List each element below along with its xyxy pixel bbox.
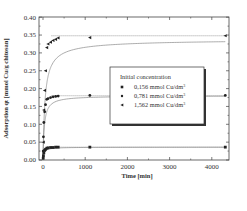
marker-circle [224,94,227,97]
marker-triangle [45,46,48,49]
marker-triangle [43,89,46,92]
marker-triangle [88,36,91,39]
x-tick-label: 0 [41,163,45,171]
marker-circle [44,103,47,106]
legend-marker-circle [121,95,123,97]
y-tick-label: 0.15 [24,103,37,111]
y-tick-label: 0.20 [24,85,37,93]
marker-square [224,146,227,149]
marker-circle [42,135,45,138]
marker-square [49,146,52,149]
marker-square [54,146,57,149]
marker-triangle [46,42,49,45]
marker-square [47,146,50,149]
y-tick-label: 0.00 [24,156,37,164]
legend: Initial concentration0,156 mmol Cu/dm30,… [110,67,206,126]
y-tick-label: 0.10 [24,121,37,129]
marker-circle [42,121,45,124]
legend-entry-label: 1,562 mmol Cu/dm3 [134,101,185,109]
x-axis-title: Time [min] [121,172,152,180]
fit-curve [43,147,225,160]
marker-square [88,146,91,149]
y-axis-title: Adsorption qₜ [mmol Cu/g chitosan] [2,38,10,138]
x-tick-label: 4000 [205,163,220,171]
legend-marker-square [121,86,124,89]
marker-circle [52,95,55,98]
legend-entry-label: 0,156 mmol Cu/dm3 [134,83,185,91]
x-tick-label: 2000 [120,163,135,171]
marker-circle [88,94,91,97]
legend-entry-label: 0,781 mmol Cu/dm3 [134,92,185,100]
marker-triangle [44,69,47,72]
marker-circle [47,97,50,100]
y-tick-label: 0.25 [24,67,37,75]
marker-circle [42,150,45,153]
marker-circle [49,96,52,99]
x-tick-label: 1000 [78,163,93,171]
marker-square [57,146,60,149]
y-tick-label: 0.30 [24,49,37,57]
marker-circle [57,95,60,98]
marker-triangle [224,34,227,37]
y-tick-label: 0.35 [24,31,37,39]
y-tick-label: 0.40 [24,14,37,22]
marker-circle [54,95,57,98]
y-tick-label: 0.05 [24,138,37,146]
x-tick-label: 3000 [163,163,178,171]
marker-square [52,146,55,149]
marker-square [42,154,45,157]
marker-square [42,157,45,160]
adsorption-chart: 0.000.050.100.150.200.250.300.350.400100… [0,0,247,211]
legend-title: Initial concentration [120,73,172,80]
